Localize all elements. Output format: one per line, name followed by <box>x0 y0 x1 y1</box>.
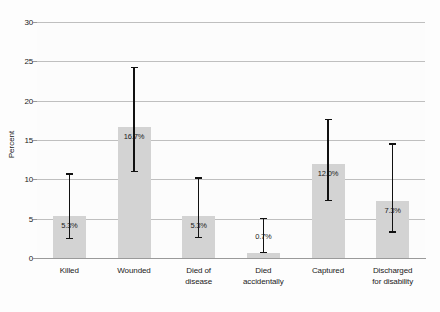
x-category-label-line: Died <box>231 265 296 276</box>
bar-group[interactable]: 0.7% <box>247 22 280 258</box>
bar-value-label: 5.3% <box>61 221 77 230</box>
gridline <box>37 219 425 220</box>
error-bar-line <box>327 120 329 201</box>
y-tick-label: 0 <box>5 254 33 263</box>
error-bar-cap-upper <box>195 177 202 179</box>
y-tick-label: 20 <box>5 96 33 105</box>
y-tick-mark <box>33 258 37 259</box>
x-axis-line <box>37 258 426 259</box>
gridline <box>37 22 425 23</box>
error-bar-cap-lower <box>325 200 332 202</box>
plot-area: 5.3%16.7%5.3%0.7%12.0%7.3% <box>37 22 425 258</box>
y-tick-mark <box>33 140 37 141</box>
bar-value-label: 12.0% <box>318 169 338 178</box>
x-category-label-line: Killed <box>37 265 102 276</box>
error-bar-cap-lower <box>131 171 138 173</box>
y-tick-mark <box>33 101 37 102</box>
y-tick-label: 15 <box>5 136 33 145</box>
x-category-label-line: Discharged <box>360 265 425 276</box>
x-category-label-line: Wounded <box>102 265 167 276</box>
x-category-label: Diedaccidentally <box>231 265 296 287</box>
x-category-label-line: for disability <box>360 276 425 287</box>
bar-value-label: 5.3% <box>191 221 207 230</box>
error-bar-cap-upper <box>325 119 332 121</box>
error-bar-cap-upper <box>131 67 138 69</box>
y-tick-label: 10 <box>5 175 33 184</box>
bar-chart-figure: Percent 051015202530 5.3%16.7%5.3%0.7%12… <box>0 0 440 312</box>
bar[interactable] <box>247 253 280 259</box>
y-tick-mark <box>33 22 37 23</box>
bar-group[interactable]: 12.0% <box>312 22 345 258</box>
x-category-label-line: Captured <box>296 265 361 276</box>
error-bar-cap-lower <box>66 238 73 240</box>
y-tick-label: 30 <box>5 18 33 27</box>
gridline <box>37 61 425 62</box>
x-category-label: Died ofdisease <box>166 265 231 287</box>
y-tick-mark <box>33 179 37 180</box>
x-category-label: Captured <box>296 265 361 276</box>
x-category-label-line: Died of <box>166 265 231 276</box>
error-bar-cap-upper <box>260 218 267 220</box>
bar-value-label: 16.7% <box>124 132 144 141</box>
error-bar-cap-lower <box>195 237 202 239</box>
gridline <box>37 179 425 180</box>
x-category-label: Wounded <box>102 265 167 276</box>
bar-group[interactable]: 5.3% <box>53 22 86 258</box>
bar-group[interactable]: 5.3% <box>182 22 215 258</box>
gridline <box>37 101 425 102</box>
bar-value-label: 0.7% <box>255 232 271 241</box>
error-bar-cap-lower <box>260 252 267 254</box>
x-category-label-line: disease <box>166 276 231 287</box>
y-tick-mark <box>33 61 37 62</box>
error-bar-line <box>133 68 135 172</box>
y-tick-label: 5 <box>5 214 33 223</box>
x-category-label: Killed <box>37 265 102 276</box>
bar-value-label: 7.3% <box>385 206 401 215</box>
gridline <box>37 140 425 141</box>
y-tick-label: 25 <box>5 57 33 66</box>
error-bar-line <box>392 144 394 232</box>
bar-group[interactable]: 7.3% <box>376 22 409 258</box>
x-category-label-line: accidentally <box>231 276 296 287</box>
bar-group[interactable]: 16.7% <box>118 22 151 258</box>
error-bar-cap-lower <box>389 231 396 233</box>
x-category-label: Dischargedfor disability <box>360 265 425 287</box>
error-bar-cap-upper <box>389 143 396 145</box>
error-bar-cap-upper <box>66 173 73 175</box>
y-tick-mark <box>33 219 37 220</box>
y-axis-ticks: 051015202530 <box>0 0 33 312</box>
